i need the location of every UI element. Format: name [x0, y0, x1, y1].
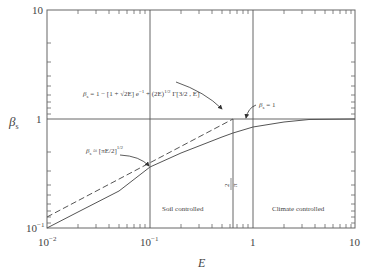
svg-text:π: π	[231, 183, 239, 187]
svg-text:10−1: 10−1	[26, 221, 45, 234]
svg-text:2: 2	[223, 183, 231, 187]
soil-controlled-label: Soil controlled	[162, 205, 204, 213]
climate-controlled-label: Climate controlled	[272, 205, 325, 213]
svg-text:1: 1	[36, 113, 42, 125]
svg-text:10: 10	[32, 4, 44, 16]
approx-dashed-curve	[47, 119, 233, 217]
svg-text:10: 10	[349, 236, 361, 248]
x-axis-label: E	[197, 256, 206, 270]
x-tick-labels: 10−2 10−1 1 10	[38, 235, 361, 248]
svg-text:10−1: 10−1	[140, 235, 159, 248]
y-tick-labels: 10−1 1 10	[26, 4, 45, 234]
arrow-beta-one	[246, 105, 256, 118]
eq-exact: βs = 1 − [1 + √2E] e−1 + (2E)1/2 Γ[3/2 ,…	[82, 89, 199, 99]
svg-text:1: 1	[250, 236, 256, 248]
y-ticks	[47, 43, 355, 223]
y-axis-label: βs	[8, 114, 19, 131]
reference-lines	[47, 10, 355, 228]
chart: 10−2 10−1 1 10 10−1 1 10 E βs βs = 1 − […	[0, 0, 370, 272]
eq-approx: βs ≈ [πE/2]1/2	[85, 145, 124, 156]
eq-beta-one: βs = 1	[258, 101, 276, 110]
svg-text:10−2: 10−2	[38, 235, 57, 248]
arrow-approx	[120, 155, 149, 166]
two-over-pi-label: 2 π	[223, 178, 239, 190]
